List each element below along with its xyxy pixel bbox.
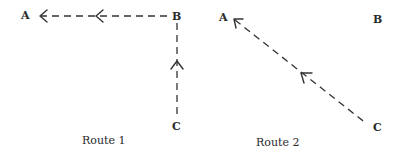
route1-point-c-label: C — [172, 120, 181, 133]
route1-point-b-label: B — [172, 10, 181, 23]
arrow-up-left-icon — [301, 73, 312, 83]
route2-point-c-label: C — [373, 121, 382, 134]
route2-caption: Route 2 — [256, 136, 299, 149]
route-2: A B C Route 2 — [218, 11, 382, 149]
route2-segment-c-to-a — [235, 20, 367, 124]
route1-caption: Route 1 — [82, 134, 125, 147]
routes-diagram: A B C Route 1 A B C Route 2 — [0, 0, 401, 156]
route2-point-b-label: B — [373, 13, 382, 26]
route1-point-a-label: A — [20, 9, 30, 22]
route2-point-a-label: A — [218, 11, 228, 24]
route-1: A B C Route 1 — [20, 9, 183, 147]
